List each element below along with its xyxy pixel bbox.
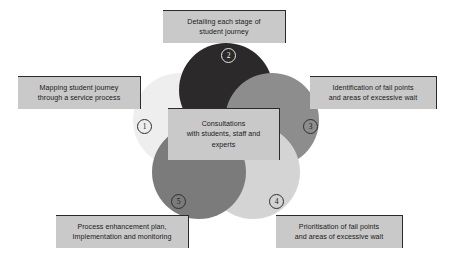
label-text: Detailing each stage of student journey — [187, 17, 260, 38]
center-callout-consultations: Consultations with students, staff and e… — [168, 108, 280, 160]
step-marker-1: 1 — [137, 119, 152, 134]
label-detailing-each-stage: Detailing each stage of student journey — [163, 10, 286, 43]
label-prioritisation-fail-points: Prioritisation of fail points and areas … — [276, 215, 403, 248]
label-text: Identification of fail points and areas … — [329, 83, 418, 104]
step-marker-2: 2 — [221, 48, 236, 63]
label-text: Prioritisation of fail points and areas … — [295, 222, 384, 243]
center-callout-text: Consultations with students, staff and e… — [187, 119, 261, 150]
label-identification-fail-points: Identification of fail points and areas … — [310, 76, 437, 109]
step-marker-5: 5 — [171, 194, 186, 209]
step-marker-label: 4 — [275, 198, 279, 206]
step-marker-4: 4 — [269, 194, 284, 209]
step-marker-label: 5 — [177, 198, 181, 206]
step-marker-label: 1 — [143, 123, 147, 131]
diagram-canvas: Consultations with students, staff and e… — [0, 0, 450, 262]
step-marker-label: 2 — [227, 52, 231, 60]
label-text: Process enhancement plan, Implementation… — [73, 222, 172, 243]
label-mapping-student-journey: Mapping student journey through a servic… — [18, 76, 141, 109]
step-marker-3: 3 — [303, 119, 318, 134]
step-marker-label: 3 — [309, 123, 313, 131]
label-text: Mapping student journey through a servic… — [38, 83, 120, 104]
label-process-enhancement-plan: Process enhancement plan, Implementation… — [56, 215, 189, 248]
